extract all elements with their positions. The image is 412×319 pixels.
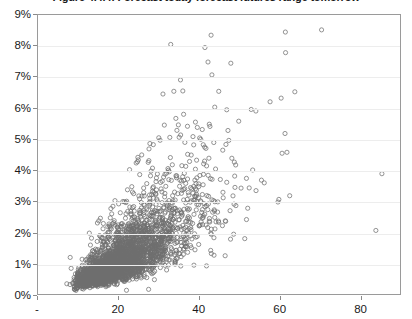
scatter-point [212,140,216,144]
scatter-point [185,177,189,181]
y-tick-label: 8% [14,39,31,51]
scatter-point [95,239,99,243]
y-tick-label: 7% [14,70,31,82]
scatter-point [230,156,234,160]
scatter-point [165,268,169,272]
scatter-point [243,237,247,241]
gridline [38,46,400,47]
y-tick-label: 9% [14,8,31,20]
y-tick-label: 4% [14,164,31,176]
scatter-point [177,218,181,222]
scatter-point [374,228,378,232]
scatter-point [254,189,258,193]
scatter-point [205,164,209,168]
scatter-point [176,123,180,127]
scatter-point [182,112,186,116]
scatter-point [158,266,162,270]
scatter-point [181,89,185,93]
scatter-point [183,140,187,144]
plot-area [37,14,401,295]
scatter-point [147,287,151,291]
scatter-point [209,33,213,37]
scatter-point [285,150,289,154]
scatter-point [162,123,166,127]
scatter-point [246,206,250,210]
scatter-point [168,155,172,159]
scatter-point [155,172,159,176]
gridline [38,109,400,110]
scatter-point [280,151,284,155]
scatter-point [207,156,211,160]
scatter-point [247,186,251,190]
scatter-point [194,208,198,212]
scatter-point [187,159,191,163]
scatter-point [213,215,217,219]
scatter-point [167,178,171,182]
x-tick-mark [361,296,362,300]
scatter-point [319,28,323,32]
x-tick-mark [199,296,200,300]
scatter-point [221,148,225,152]
scatter-point [239,186,243,190]
scatter-point [180,164,184,168]
scatter-point [124,288,128,292]
scatter-point [152,278,156,282]
scatter-point [288,194,292,198]
scatter-point [148,174,152,178]
scatter-point [138,173,142,177]
scatter-point [69,266,73,270]
y-tick-label: 1% [14,258,31,270]
scatter-point [218,177,222,181]
x-tick-label: 60 [273,303,286,315]
scatter-point [195,158,199,162]
scatter-point [172,236,176,240]
scatter-point [217,89,221,93]
scatter-point [210,73,214,77]
scatter-point [268,100,272,104]
scatter-point [168,135,172,139]
x-tick-label: - [35,303,39,315]
scatter-points-layer [38,15,400,294]
scatter-point [193,120,197,124]
x-tick-mark [280,296,281,300]
scatter-point [206,60,210,64]
x-tick-label: 20 [111,303,124,315]
scatter-point [231,194,235,198]
scatter-point [137,197,141,201]
scatter-chart-figure: Figure 4.4.4: Forecast today forecast fu… [0,0,412,319]
scatter-point [202,159,206,163]
scatter-point [191,135,195,139]
scatter-point [200,208,204,212]
chart-title: Figure 4.4.4: Forecast today forecast fu… [0,0,412,3]
scatter-point [283,30,287,34]
scatter-point [283,51,287,55]
gridline [38,234,400,235]
scatter-point [125,188,129,192]
scatter-point [172,89,176,93]
y-tick-label: 5% [14,133,31,145]
x-axis: -20406080 [0,296,412,319]
scatter-point [184,164,188,168]
scatter-point [228,237,232,241]
scatter-point [88,243,92,247]
scatter-point [224,142,228,146]
scatter-point [110,212,114,216]
gridline [38,140,400,141]
x-tick-mark [37,296,38,300]
y-axis: 0%1%2%3%4%5%6%7%8%9% [0,14,31,295]
scatter-point [68,255,72,259]
scatter-point [193,248,197,252]
scatter-point [244,217,248,221]
scatter-point [226,128,230,132]
scatter-point [164,184,168,188]
scatter-point [244,176,248,180]
gridline [38,171,400,172]
scatter-point [229,61,233,65]
scatter-point [277,197,281,201]
scatter-point [220,224,224,228]
scatter-point [225,180,229,184]
scatter-point [197,242,201,246]
scatter-point [380,172,384,176]
scatter-point [101,221,105,225]
scatter-point [123,216,127,220]
